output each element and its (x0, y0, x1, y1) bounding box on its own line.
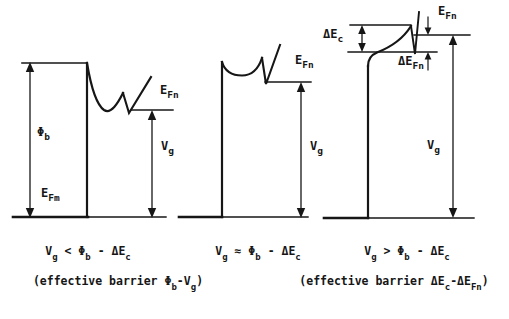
panel3-vg-label: Vg (427, 139, 440, 151)
panel2-band-break-icon (262, 45, 280, 84)
panel3-defn-down-arrow (425, 17, 432, 35)
panel1-vg-label: Vg (161, 140, 174, 152)
panel3-vg-arrow (449, 35, 457, 218)
panel1-band-diagram (13, 62, 173, 218)
panel2-vg-arrow (297, 82, 305, 218)
figure-line-art (0, 0, 509, 319)
panel1-phib-label: Φb (37, 126, 50, 138)
panel1-caption: Vg < Φb - ΔEc (45, 246, 131, 258)
panel3-band-diagram (324, 12, 474, 218)
panel1-efm-label: EFm (41, 187, 60, 199)
panel3-defn-label: ΔEFn (398, 55, 424, 67)
panel3-subcaption: (effective barrier ΔEc-ΔEFn) (299, 276, 488, 288)
band-diagram-figure: Φb EFm EFn Vg EFn Vg ΔEc EFn ΔEFn Vg Vg … (0, 0, 509, 319)
panel1-band-break-icon (123, 77, 151, 113)
panel1-efn-label: EFn (160, 84, 179, 96)
panel2-caption: Vg ≈ Φb - ΔEc (215, 246, 301, 258)
panel3-dec-label: ΔEc (323, 28, 343, 40)
panel1-vg-arrow (148, 110, 156, 218)
panel3-band-notch-icon (411, 12, 419, 54)
panel2-vg-label: Vg (310, 140, 323, 152)
panel2-efn-label: EFn (295, 54, 314, 66)
panel3-efn-label: EFn (438, 5, 457, 17)
panel2-conduction-band-curve (222, 58, 262, 76)
panel3-defn-up-arrow (425, 52, 432, 70)
panel3-dec-arrow (358, 25, 366, 52)
panel1-subcaption: (effective barrier Φb-Vg) (33, 276, 203, 288)
panel1-phib-arrow (26, 62, 34, 218)
panel1-conduction-band-curve (87, 63, 123, 111)
panel2-band-diagram (179, 45, 311, 218)
panel3-caption: Vg > Φb - ΔEc (364, 246, 450, 258)
